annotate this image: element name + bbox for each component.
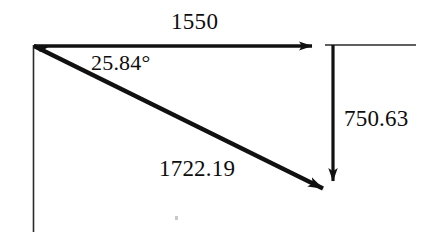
resultant-label: 1722.19 [159, 157, 235, 180]
angle-label: 25.84° [91, 52, 151, 74]
scan-artifact-speck [175, 216, 178, 220]
vertical-component-label: 750.63 [344, 107, 408, 130]
horizontal-component-label: 1550 [171, 10, 218, 33]
vector-diagram-figure: 1550 25.84° 750.63 1722.19 [0, 0, 432, 245]
